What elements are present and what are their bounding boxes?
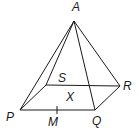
edge-AQ <box>74 21 95 110</box>
label-P: P <box>6 110 14 124</box>
edge-QR <box>95 86 120 110</box>
label-R: R <box>123 79 132 93</box>
edge-RS <box>46 85 120 86</box>
label-X: X <box>65 90 75 104</box>
label-A: A <box>71 0 80 14</box>
label-S: S <box>58 71 66 85</box>
edge-AR <box>74 21 120 86</box>
label-M: M <box>48 115 58 129</box>
pyramid-diagram: A P Q R S X M <box>0 0 139 140</box>
label-Q: Q <box>92 114 101 128</box>
